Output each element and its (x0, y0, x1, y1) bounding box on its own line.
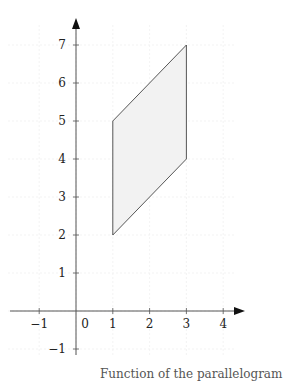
caption-cut-off: Function of the parallelogram (100, 367, 282, 381)
x-tick-label: 4 (219, 317, 227, 331)
x-tick-label: −1 (30, 317, 48, 331)
x-tick-label: 1 (109, 317, 117, 331)
y-tick-label: 3 (58, 190, 66, 204)
y-tick-label: 6 (58, 76, 66, 90)
x-axis-arrow-icon (234, 307, 245, 315)
y-tick-label: −1 (48, 342, 66, 356)
y-axis-arrow-icon (72, 18, 80, 29)
y-tick-label: 1 (58, 266, 66, 280)
x-tick-label: 0 (81, 317, 89, 331)
x-tick-label: 2 (146, 317, 154, 331)
y-tick-label: 4 (58, 152, 66, 166)
y-tick-label: 7 (58, 38, 66, 52)
y-tick-label: 2 (58, 228, 66, 242)
y-tick-label: 5 (58, 114, 66, 128)
x-tick-label: 3 (183, 317, 191, 331)
